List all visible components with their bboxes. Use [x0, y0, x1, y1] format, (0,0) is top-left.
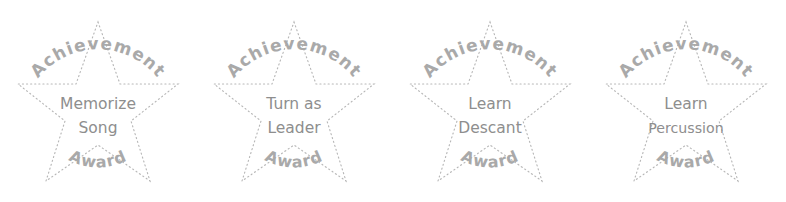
badge-center-line-2: Song — [79, 119, 118, 137]
arc-bottom-label: Award — [654, 146, 717, 172]
arc-bottom-label-text: Award — [654, 146, 717, 172]
arc-top-label: Achievement — [418, 33, 562, 81]
arc-top-label: Achievement — [222, 33, 366, 81]
badge-center-line-2: Percussion — [648, 120, 724, 136]
arc-top-label-text: Achievement — [418, 33, 562, 81]
badge-center-line-1: Learn — [468, 95, 511, 113]
arc-top-label-text: Achievement — [222, 33, 366, 81]
arc-bottom-label: Award — [458, 146, 521, 172]
arc-bottom-label-text: Award — [458, 146, 521, 172]
arc-top-label: Achievement — [26, 33, 170, 81]
badge-center-line-2: Descant — [458, 119, 521, 137]
achievement-award-badge: Achievement Award Learn Percussion — [588, 0, 784, 202]
arc-bottom-label-text: Award — [262, 146, 325, 172]
achievement-award-badge: Achievement Award Turn as Leader — [196, 0, 392, 202]
arc-top-label: Achievement — [614, 33, 758, 81]
badge-center-line-1: Memorize — [60, 95, 136, 113]
arc-top-label-text: Achievement — [614, 33, 758, 81]
achievement-award-badge-strip: Achievement Award Memorize Song Achievem… — [0, 0, 786, 202]
arc-bottom-label-text: Award — [66, 146, 129, 172]
badge-center-line-2: Leader — [267, 119, 321, 137]
badge-center-line-1: Turn as — [265, 95, 321, 113]
achievement-award-badge: Achievement Award Memorize Song — [0, 0, 196, 202]
arc-bottom-label: Award — [262, 146, 325, 172]
arc-top-label-text: Achievement — [26, 33, 170, 81]
arc-bottom-label: Award — [66, 146, 129, 172]
achievement-award-badge: Achievement Award Learn Descant — [392, 0, 588, 202]
badge-center-line-1: Learn — [664, 95, 707, 113]
